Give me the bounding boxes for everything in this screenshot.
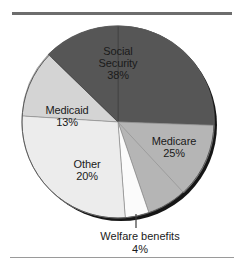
pie-chart-figure: Social Security 38% Medicare 25% Medicai… [0, 0, 244, 274]
pie-value-social-security: 38% [66, 69, 170, 81]
pie-label-social-security-line1: Social [66, 45, 170, 57]
pie-label-other: Other 20% [54, 158, 120, 182]
pie-value-medicare: 25% [136, 147, 212, 159]
pie-label-medicare: Medicare 25% [136, 135, 212, 159]
pie-label-medicaid-line1: Medicaid [28, 104, 106, 116]
pie-label-medicaid: Medicaid 13% [28, 104, 106, 128]
pie-label-other-line1: Other [54, 158, 120, 170]
pie-label-social-security: Social Security 38% [66, 45, 170, 81]
pie-callout-welfare-benefits: Welfare benefits 4% [72, 230, 208, 256]
pie-value-welfare-benefits: 4% [72, 243, 208, 256]
pie-label-social-security-line2: Security [66, 57, 170, 69]
pie-value-other: 20% [54, 170, 120, 182]
pie-value-medicaid: 13% [28, 116, 106, 128]
pie-label-welfare-benefits-line1: Welfare benefits [72, 230, 208, 243]
pie-label-medicare-line1: Medicare [136, 135, 212, 147]
bottom-divider-rule [10, 257, 234, 258]
